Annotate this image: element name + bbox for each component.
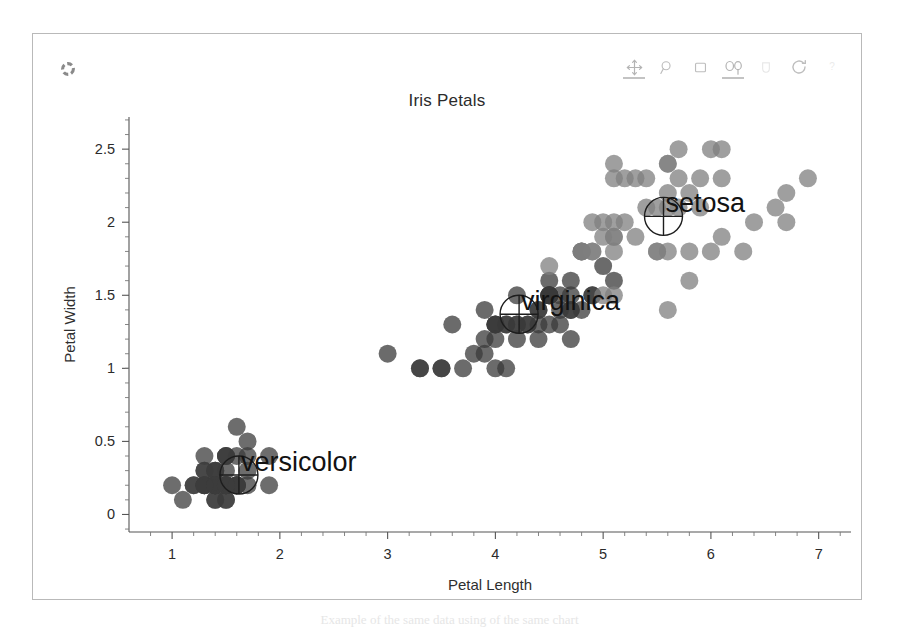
y-tick-label: 2	[107, 214, 115, 230]
data-point	[486, 330, 504, 348]
figure-frame: ? Iris Petals 123456700.511.522.5Petal L…	[32, 33, 862, 600]
data-point	[206, 476, 224, 494]
data-point	[379, 345, 397, 363]
x-tick-label: 3	[384, 546, 392, 562]
x-tick-label: 4	[491, 546, 499, 562]
data-point	[497, 359, 515, 377]
scatter-plot: 123456700.511.522.5Petal LengthPetal Wid…	[33, 34, 863, 601]
data-point	[465, 345, 483, 363]
x-axis-title: Petal Length	[448, 576, 532, 593]
data-point	[767, 199, 785, 217]
data-point	[691, 169, 709, 187]
data-point	[680, 272, 698, 290]
data-point	[680, 242, 698, 260]
data-point	[626, 228, 644, 246]
data-point	[476, 301, 494, 319]
x-tick-label: 1	[168, 546, 176, 562]
data-point	[616, 213, 634, 231]
cluster-label: virginica	[521, 286, 621, 316]
data-point	[443, 316, 461, 334]
data-point	[217, 447, 235, 465]
figure-caption: Example of the same data using of the sa…	[0, 612, 899, 628]
data-point	[702, 242, 720, 260]
data-point	[659, 301, 677, 319]
cluster-label: versicolor	[241, 447, 357, 477]
y-tick-label: 2.5	[95, 141, 115, 157]
data-point	[540, 257, 558, 275]
data-point	[260, 476, 278, 494]
x-tick-label: 5	[599, 546, 607, 562]
data-point	[174, 491, 192, 509]
y-tick-label: 1.5	[95, 287, 115, 303]
data-point	[799, 169, 817, 187]
data-point	[745, 213, 763, 231]
data-point	[411, 359, 429, 377]
data-point	[433, 359, 451, 377]
cluster-label: setosa	[665, 188, 746, 218]
data-point	[648, 242, 666, 260]
data-point	[228, 418, 246, 436]
data-point	[529, 330, 547, 348]
data-point	[637, 169, 655, 187]
data-point	[605, 242, 623, 260]
data-point	[713, 140, 731, 158]
data-point	[616, 169, 634, 187]
data-point	[573, 242, 591, 260]
data-point	[594, 228, 612, 246]
y-axis-title: Petal Width	[61, 286, 78, 363]
data-point	[713, 228, 731, 246]
data-point	[163, 476, 181, 494]
data-point	[734, 242, 752, 260]
x-tick-label: 2	[276, 546, 284, 562]
y-tick-label: 1	[107, 360, 115, 376]
data-point	[777, 213, 795, 231]
data-point	[454, 359, 472, 377]
data-point	[659, 155, 677, 173]
data-point	[713, 169, 731, 187]
x-tick-label: 6	[707, 546, 715, 562]
data-point	[670, 169, 688, 187]
data-point	[777, 184, 795, 202]
data-point	[562, 330, 580, 348]
data-point	[594, 257, 612, 275]
x-tick-label: 7	[815, 546, 823, 562]
y-tick-label: 0.5	[95, 433, 115, 449]
data-point	[670, 140, 688, 158]
y-tick-label: 0	[107, 506, 115, 522]
data-point	[583, 213, 601, 231]
